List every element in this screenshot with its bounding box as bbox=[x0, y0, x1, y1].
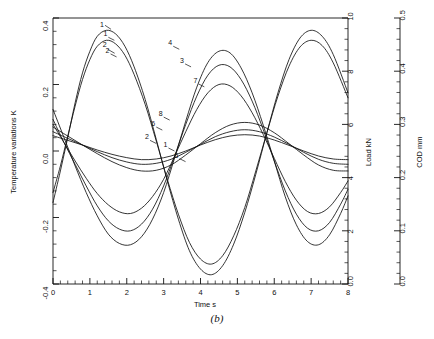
y-axis-title: Temperature variations K bbox=[9, 110, 18, 193]
y-tick-label: -0.4 bbox=[41, 287, 50, 300]
x-tick-label: 8 bbox=[346, 288, 350, 297]
curve-7 bbox=[53, 84, 348, 214]
curve-4 bbox=[53, 50, 348, 245]
figure-caption: (b) bbox=[0, 312, 434, 324]
chart-canvas: -0.4-0.20.00.20.4 012345678 0.0246810 0.… bbox=[0, 0, 434, 320]
y-tick-label: -0.2 bbox=[41, 220, 50, 233]
x-tick-label: 7 bbox=[309, 288, 313, 297]
cod-axis-tick-label: 0.2 bbox=[398, 170, 407, 180]
cod-axis-tick-label: 0.0 bbox=[398, 276, 407, 286]
load-axis-tick-label: 6 bbox=[346, 123, 355, 127]
x-tick-label: 6 bbox=[272, 288, 276, 297]
load-axis-title: Load kN bbox=[364, 138, 373, 166]
load-axis: 0.0246810 bbox=[342, 12, 355, 286]
load-axis-tick-label: 4 bbox=[346, 176, 355, 180]
x-tick-label: 1 bbox=[88, 288, 92, 297]
y-tick-label: 0.0 bbox=[41, 154, 50, 164]
cod-axis-tick-label: 0.3 bbox=[398, 117, 407, 127]
curve-labels: 121122345678 bbox=[100, 21, 204, 161]
curve-label-6: 6 bbox=[151, 120, 155, 127]
curve-3 bbox=[53, 65, 348, 232]
cod-axis: 0.00.10.20.30.40.5 bbox=[394, 10, 407, 286]
curve-label-1: 1 bbox=[164, 141, 168, 148]
figure-container: -0.4-0.20.00.20.4 012345678 0.0246810 0.… bbox=[0, 0, 434, 339]
curve-label-1: 1 bbox=[100, 21, 104, 28]
load-axis-tick-label: 0.0 bbox=[346, 276, 355, 286]
x-tick-label: 5 bbox=[235, 288, 239, 297]
load-axis-tick-label: 8 bbox=[346, 70, 355, 74]
x-axis-title: Time s bbox=[194, 300, 216, 309]
cod-axis-tick-label: 0.5 bbox=[398, 10, 407, 20]
curve-label-7: 7 bbox=[193, 77, 197, 84]
x-tick-label: 0 bbox=[51, 288, 55, 297]
y-tick-label: 0.2 bbox=[41, 87, 50, 97]
curve-label-3: 3 bbox=[180, 57, 184, 64]
data-curves bbox=[53, 30, 348, 275]
curve-label-2: 2 bbox=[145, 133, 149, 140]
curve-label-5: 5 bbox=[175, 152, 179, 159]
time-axis: 012345678 bbox=[51, 278, 350, 297]
y-tick-label: 0.4 bbox=[41, 21, 50, 31]
temperature-axis: -0.4-0.20.00.20.4 bbox=[41, 18, 59, 300]
curve-label-8: 8 bbox=[159, 110, 163, 117]
cod-axis-tick-label: 0.1 bbox=[398, 223, 407, 233]
curve-label-1: 1 bbox=[103, 30, 107, 37]
x-tick-label: 2 bbox=[125, 288, 129, 297]
curve-label-2: 2 bbox=[106, 47, 110, 54]
curve-label-4: 4 bbox=[168, 39, 172, 46]
load-axis-tick-label: 2 bbox=[346, 229, 355, 233]
x-tick-label: 4 bbox=[198, 288, 202, 297]
cod-axis-tick-label: 0.4 bbox=[398, 63, 407, 73]
x-tick-label: 3 bbox=[162, 288, 166, 297]
curve-5 bbox=[53, 122, 348, 171]
curve-8 bbox=[53, 135, 348, 160]
curve-6 bbox=[53, 130, 348, 165]
load-axis-tick-label: 10 bbox=[346, 12, 355, 20]
cod-axis-title: COD mm bbox=[415, 136, 424, 167]
